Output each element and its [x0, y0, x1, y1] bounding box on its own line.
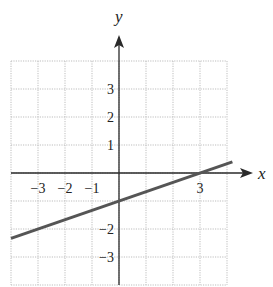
x-tick-label: −2 — [58, 181, 73, 196]
coordinate-plane: xy−3−2−13321−2−3 — [0, 0, 273, 287]
x-tick-label: 3 — [197, 181, 204, 196]
x-tick-label: −1 — [85, 181, 100, 196]
y-axis-label: y — [113, 7, 123, 26]
y-tick-label: −2 — [99, 222, 114, 237]
y-tick-label: 2 — [107, 110, 114, 125]
y-tick-label: −3 — [99, 250, 114, 265]
x-axis-label: x — [257, 164, 266, 183]
y-tick-label: 3 — [107, 82, 114, 97]
x-tick-label: −3 — [31, 181, 46, 196]
y-tick-label: 1 — [107, 138, 114, 153]
tick-labels: xy−3−2−13321−2−3 — [31, 7, 266, 265]
axes — [11, 35, 253, 285]
